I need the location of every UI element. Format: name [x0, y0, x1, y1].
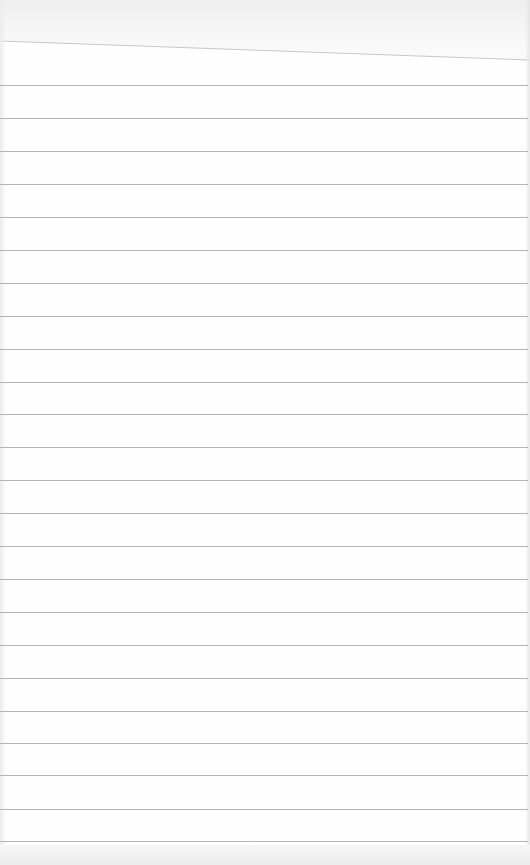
ruled-line: [0, 382, 528, 383]
ruled-line: [0, 841, 528, 842]
ruled-line: [0, 118, 528, 119]
ruled-line: [0, 250, 528, 251]
ruled-line: [0, 809, 528, 810]
ruled-line: [0, 645, 528, 646]
ruled-line: [0, 480, 528, 481]
ruled-line: [0, 743, 528, 744]
ruled-line: [0, 283, 528, 284]
ruled-line: [0, 513, 528, 514]
ruled-line: [0, 546, 528, 547]
ruled-line: [0, 579, 528, 580]
ruled-line: [0, 612, 528, 613]
ruled-line: [0, 316, 528, 317]
ruled-lines: [0, 0, 530, 865]
lined-paper-photo: [0, 0, 530, 865]
ruled-line: [0, 678, 528, 679]
ruled-line: [0, 151, 528, 152]
ruled-line: [0, 711, 528, 712]
bottom-paper-band: [0, 845, 530, 865]
ruled-line: [0, 349, 528, 350]
ruled-line: [0, 217, 528, 218]
ruled-line: [0, 447, 528, 448]
ruled-line: [0, 414, 528, 415]
ruled-line: [0, 85, 528, 86]
ruled-line: [0, 775, 528, 776]
ruled-line: [0, 184, 528, 185]
